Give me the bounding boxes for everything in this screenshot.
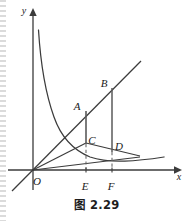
x-axis-label: x	[176, 171, 182, 182]
hyperbola-curve	[39, 30, 165, 161]
origin-label: O	[33, 175, 41, 187]
geometry-diagram: y x O A B C D E F	[0, 0, 194, 221]
point-label-C: C	[88, 134, 96, 146]
ray-O-through-D	[33, 143, 86, 170]
point-label-D: D	[114, 140, 123, 152]
line-through-origin-OB	[12, 61, 141, 191]
point-label-A: A	[73, 100, 81, 112]
figure-container: y x O A B C D E F 图 2.29	[0, 0, 194, 221]
figure-caption: 图 2.29	[0, 196, 194, 212]
y-axis-arrow-icon	[29, 8, 36, 16]
point-label-B: B	[101, 77, 108, 89]
point-label-F: F	[107, 180, 115, 192]
point-label-E: E	[81, 180, 89, 192]
y-axis-label: y	[21, 5, 27, 16]
